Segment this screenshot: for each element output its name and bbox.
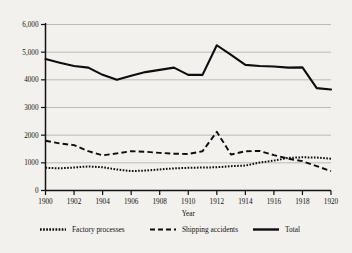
- y-tick-labels-group: 010002000300040005,0006,000: [22, 21, 39, 195]
- x-tick-label: 1904: [95, 198, 110, 206]
- y-tick-label: 3000: [24, 104, 39, 112]
- x-tick-label: 1902: [67, 198, 82, 206]
- y-tick-label: 4000: [24, 76, 39, 84]
- y-tick-label: 5,000: [22, 49, 39, 57]
- chart-canvas: 010002000300040005,0006,000 190019021904…: [0, 0, 352, 253]
- x-tick-label: 1910: [181, 198, 196, 206]
- legend-item: Factory processes: [40, 225, 125, 234]
- x-tick-label: 1906: [124, 198, 139, 206]
- x-tick-label: 1908: [153, 198, 168, 206]
- x-tick-label: 1900: [38, 198, 53, 206]
- legend: Factory processesShipping accidentsTotal: [40, 225, 300, 234]
- legend-label: Shipping accidents: [182, 225, 238, 234]
- series-line-shipping-accidents: [46, 132, 332, 171]
- x-tick-labels-group: 1900190219041906190819101912191419161918…: [38, 198, 338, 206]
- x-tick-label: 1916: [267, 198, 282, 206]
- x-tick-label: 1920: [324, 198, 339, 206]
- legend-item: Total: [253, 225, 300, 234]
- y-tick-label: 6,000: [22, 21, 39, 29]
- y-tick-label: 2000: [24, 132, 39, 140]
- x-tick-label: 1918: [295, 198, 310, 206]
- y-tick-label: 0: [35, 187, 39, 195]
- x-axis-title: Year: [182, 210, 196, 218]
- line-chart: 010002000300040005,0006,000 190019021904…: [0, 0, 352, 253]
- legend-label: Factory processes: [72, 225, 125, 234]
- x-tick-label: 1912: [210, 198, 225, 206]
- legend-label: Total: [285, 225, 300, 234]
- y-tick-label: 1000: [24, 159, 39, 167]
- series-line-factory-processes: [46, 157, 332, 171]
- gridlines-group: [46, 25, 332, 163]
- x-tick-label: 1914: [238, 198, 253, 206]
- legend-item: Shipping accidents: [150, 225, 238, 234]
